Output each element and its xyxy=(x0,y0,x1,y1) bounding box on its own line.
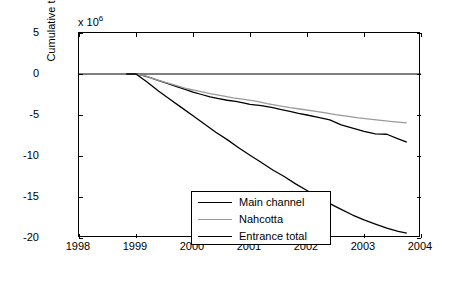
y-tick-label: 0 xyxy=(9,67,39,79)
x-tick xyxy=(136,33,137,37)
x-tick-label: 1999 xyxy=(115,240,155,252)
exponent-value: 6 xyxy=(99,14,103,23)
legend-swatch-entrance-total xyxy=(198,236,232,237)
legend-item-nahcotta: Nahcotta xyxy=(192,210,330,228)
x-tick xyxy=(193,33,194,37)
y-axis-label: Cumulative transport (m3) xyxy=(44,0,58,101)
y-tick-label: 5 xyxy=(9,26,39,38)
legend-label-main-channel: Main channel xyxy=(239,196,304,208)
legend-swatch-nahcotta xyxy=(198,219,232,220)
y-tick-label: -15 xyxy=(9,190,39,202)
y-tick xyxy=(417,156,421,157)
y-axis-exponent: x 106 xyxy=(78,14,103,28)
y-tick xyxy=(79,74,83,75)
y-tick xyxy=(417,197,421,198)
legend-swatch-main-channel xyxy=(198,202,232,203)
legend-item-main-channel: Main channel xyxy=(192,193,330,211)
x-tick xyxy=(364,234,365,238)
x-tick xyxy=(364,33,365,37)
x-tick xyxy=(79,33,80,37)
x-tick xyxy=(136,234,137,238)
y-tick-label: -20 xyxy=(9,231,39,243)
x-tick xyxy=(250,33,251,37)
y-tick xyxy=(79,115,83,116)
y-tick xyxy=(79,197,83,198)
exponent-prefix: x 10 xyxy=(78,16,99,28)
y-tick-label: -5 xyxy=(9,108,39,120)
y-tick-label: -10 xyxy=(9,149,39,161)
legend-label-entrance-total: Entrance total xyxy=(239,230,307,242)
y-tick xyxy=(417,238,421,239)
y-tick xyxy=(79,156,83,157)
x-tick-label: 2003 xyxy=(343,240,383,252)
y-tick xyxy=(417,115,421,116)
x-tick xyxy=(421,33,422,37)
series-line-0 xyxy=(126,74,406,142)
x-tick xyxy=(307,33,308,37)
legend-item-entrance-total: Entrance total xyxy=(192,227,330,245)
legend-label-nahcotta: Nahcotta xyxy=(239,213,283,225)
plot-area: Main channel Nahcotta Entrance total xyxy=(78,32,420,237)
x-tick-label: 2004 xyxy=(400,240,440,252)
x-tick-label: 1998 xyxy=(58,240,98,252)
y-tick xyxy=(79,238,83,239)
y-tick xyxy=(417,74,421,75)
chart-container: x 106 Cumulative transport (m3) 50-5-10-… xyxy=(0,0,463,287)
x-tick xyxy=(421,234,422,238)
x-tick xyxy=(79,234,80,238)
legend: Main channel Nahcotta Entrance total xyxy=(191,191,331,245)
